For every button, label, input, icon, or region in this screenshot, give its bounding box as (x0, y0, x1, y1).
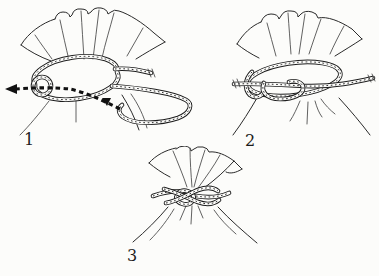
rope-knot (153, 188, 229, 205)
rope-wrap (33, 56, 155, 99)
step-3-drawing (126, 146, 261, 258)
step-1-label: 1 (24, 132, 34, 148)
step-3-label: 3 (127, 248, 137, 264)
rope-loop (112, 86, 190, 123)
pull-direction-arrow-icon (5, 84, 120, 109)
step-2-drawing (226, 2, 378, 148)
rope-knot (233, 62, 375, 99)
knot-tying-diagram: 1 2 3 (0, 0, 379, 276)
left-arrowhead-icon (5, 84, 17, 94)
step-2-label: 2 (245, 133, 255, 149)
